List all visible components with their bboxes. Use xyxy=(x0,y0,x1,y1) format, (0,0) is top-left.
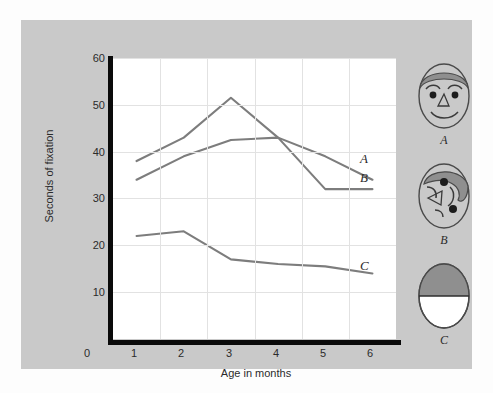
y-axis-line xyxy=(108,56,113,345)
half-shaded-oval-icon xyxy=(404,260,484,332)
y-tick-30: 30 xyxy=(75,193,105,204)
stimulus-c-caption: C xyxy=(404,333,484,348)
chart-panel: 60 50 40 30 20 10 0 1 2 3 4 5 6 Seconds … xyxy=(21,20,472,369)
gridline-x-2 xyxy=(207,58,208,339)
y-axis-ticks: 60 50 40 30 20 10 xyxy=(71,20,105,393)
y-tick-40: 40 xyxy=(75,147,105,158)
y-tick-60: 60 xyxy=(75,53,105,64)
normal-face-icon xyxy=(404,60,484,132)
scrambled-face-icon xyxy=(404,160,484,232)
gridline-x-1 xyxy=(160,58,161,339)
y-tick-20: 20 xyxy=(75,240,105,251)
y-axis-label: Seconds of fixation xyxy=(43,101,55,251)
x-tick-2: 2 xyxy=(171,348,191,359)
stimulus-legend: A B xyxy=(404,60,484,370)
x-tick-1: 1 xyxy=(124,348,144,359)
y-tick-10: 10 xyxy=(75,287,105,298)
x-tick-5: 5 xyxy=(313,348,333,359)
stimulus-a: A xyxy=(404,60,484,148)
stimulus-b-caption: B xyxy=(404,233,484,248)
x-tick-0: 0 xyxy=(77,348,97,359)
figure-container: 60 50 40 30 20 10 0 1 2 3 4 5 6 Seconds … xyxy=(0,0,493,393)
curve-label-b: B xyxy=(360,170,368,186)
x-axis-line xyxy=(108,340,401,345)
stimulus-c: C xyxy=(404,260,484,348)
stimulus-a-caption: A xyxy=(404,133,484,148)
gridline-x-4 xyxy=(302,58,303,339)
x-axis-label: Age in months xyxy=(171,367,341,379)
curve-label-c: C xyxy=(360,258,369,274)
gridline-x-3 xyxy=(255,58,256,339)
x-tick-3: 3 xyxy=(219,348,239,359)
y-tick-50: 50 xyxy=(75,100,105,111)
x-tick-4: 4 xyxy=(266,348,286,359)
plot-area xyxy=(113,58,396,339)
x-tick-6: 6 xyxy=(360,348,380,359)
gridline-x-5 xyxy=(349,58,350,339)
curve-label-a: A xyxy=(360,151,368,167)
stimulus-b: B xyxy=(404,160,484,248)
